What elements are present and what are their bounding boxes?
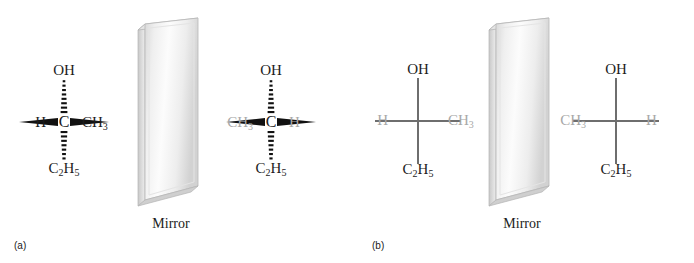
atom-label-left: CH3	[560, 113, 586, 128]
panel-caption-a: (a)	[14, 240, 26, 251]
molecule-b-left: OH H CH3 C2H5	[338, 56, 498, 186]
atom-label-left: H	[377, 113, 388, 128]
atom-label-left: H	[35, 115, 46, 130]
atom-label-top: OH	[260, 63, 282, 78]
molecule-a-right: OH C CH3 H C2H5	[191, 57, 351, 187]
atom-label-right: H	[289, 115, 300, 130]
atom-label-center: C	[266, 114, 277, 130]
atom-label-bottom: C2H5	[403, 162, 434, 177]
mirror-label-a: Mirror	[133, 216, 209, 232]
atom-label-right: CH3	[448, 113, 474, 128]
panel-caption-b: (b)	[372, 240, 384, 251]
atom-label-right: CH3	[82, 115, 108, 130]
atom-label-bottom: C2H5	[256, 161, 287, 176]
atom-label-right: H	[646, 113, 657, 128]
atom-label-center: C	[59, 114, 70, 130]
molecule-b-right: OH CH3 H C2H5	[536, 56, 694, 186]
atom-label-top: OH	[53, 63, 75, 78]
mirror-side-edge	[138, 24, 145, 206]
atom-label-top: OH	[605, 62, 627, 77]
bond-hash-top	[268, 80, 275, 113]
bond-hash-top	[61, 80, 68, 113]
atom-label-bottom: C2H5	[601, 162, 632, 177]
panel-b: OH H CH3 C2H5	[340, 0, 694, 263]
panel-a: OH C H CH3 C2H5	[0, 0, 340, 263]
chirality-figure: OH C H CH3 C2H5	[0, 0, 694, 263]
molecule-a-left: OH C H CH3 C2H5	[0, 57, 144, 187]
atom-label-top: OH	[407, 62, 429, 77]
bond-hash-bottom	[268, 131, 275, 160]
bond-hash-bottom	[61, 131, 68, 160]
atom-label-bottom: C2H5	[49, 161, 80, 176]
atom-label-left: CH3	[227, 115, 253, 130]
mirror-side-edge	[489, 24, 496, 206]
mirror-label-b: Mirror	[484, 216, 560, 232]
